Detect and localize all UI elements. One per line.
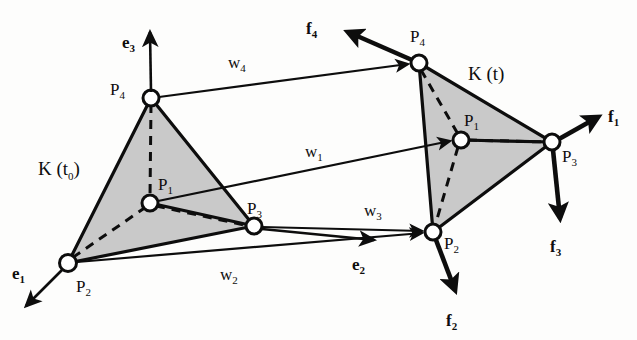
region-label-current: K (t) xyxy=(468,63,504,85)
displacement-label-w1: w1 xyxy=(305,142,323,163)
reference-node-p1[interactable] xyxy=(142,195,158,211)
tetrahedron-deformation-diagram: Tetrahedral element K in reference confi… xyxy=(0,0,637,340)
current-node-p2[interactable] xyxy=(425,224,441,240)
basis-label-e3: e3 xyxy=(122,33,136,54)
current-label-p2: P2 xyxy=(444,234,459,255)
displacement-label-w4: w4 xyxy=(228,53,246,74)
reference-label-p3: P3 xyxy=(247,199,262,220)
current-label-p4: P4 xyxy=(410,27,425,48)
force-label-f4: f4 xyxy=(306,19,318,40)
current-visible-face xyxy=(419,63,552,232)
current-label-p3: P3 xyxy=(562,147,577,168)
reference-node-p3[interactable] xyxy=(246,218,262,234)
displacement-label-w3: w3 xyxy=(364,201,382,222)
force-vector-f3 xyxy=(553,150,560,218)
basis-vector-e3 xyxy=(150,32,151,92)
reference-node-p2[interactable] xyxy=(60,255,77,272)
basis-vector-e1 xyxy=(26,270,62,306)
displacement-label-w2: w2 xyxy=(220,265,238,286)
basis-vector-e2 xyxy=(262,229,374,240)
reference-node-p4[interactable] xyxy=(143,90,159,106)
force-vector-f4 xyxy=(348,32,412,60)
force-label-f3: f3 xyxy=(550,237,562,258)
current-node-p1[interactable] xyxy=(453,132,469,148)
basis-label-e1: e1 xyxy=(12,264,25,285)
force-label-f2: f2 xyxy=(446,311,458,332)
current-node-p4[interactable] xyxy=(411,55,427,71)
tetrahedron-current: P4 P1 P3 P2 xyxy=(410,27,577,255)
reference-label-p4: P4 xyxy=(110,80,125,101)
force-label-f1: f1 xyxy=(608,107,619,128)
figure-canvas: Tetrahedral element K in reference confi… xyxy=(0,0,637,340)
reference-label-p2: P2 xyxy=(76,277,91,298)
current-node-p3[interactable] xyxy=(544,134,560,150)
displacement-vector-w4 xyxy=(159,64,408,97)
region-label-reference: K (t0) xyxy=(38,158,80,182)
basis-label-e2: e2 xyxy=(352,255,366,276)
force-vector-f1 xyxy=(559,117,598,139)
